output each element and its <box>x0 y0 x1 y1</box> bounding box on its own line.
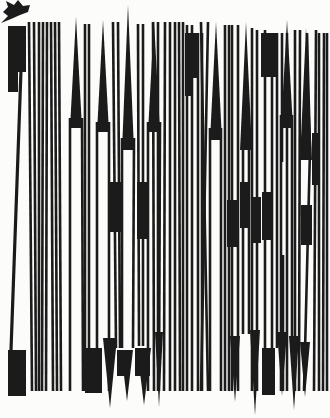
glyph-apex-wedge <box>300 28 312 160</box>
glyph-bar <box>185 33 198 78</box>
glyph-bar <box>253 197 261 243</box>
stretched-glyph-field <box>8 5 327 415</box>
glyph-bar <box>312 133 320 185</box>
glyph-vertex-wedge <box>300 342 310 397</box>
screenshot-root <box>0 0 330 418</box>
glyph-diagonal <box>11 70 21 350</box>
glyph-bar <box>110 182 122 232</box>
glyph-apex-wedge <box>240 22 252 150</box>
glyph-vertex-wedge <box>155 332 163 407</box>
glyph-stem <box>59 22 61 391</box>
glyph-bar <box>185 76 192 96</box>
glyph-bar <box>8 26 26 72</box>
glyph-apex-wedge <box>122 5 134 150</box>
glyph-stem <box>82 118 83 391</box>
glitch-canvas <box>0 0 330 418</box>
glyph-stem <box>133 138 134 348</box>
glyph-stem <box>299 30 300 391</box>
glyph-bar <box>85 348 102 393</box>
glyph-stem <box>164 22 165 391</box>
mouse-cursor-icon <box>1 0 30 23</box>
glyph-apex-wedge <box>97 20 109 132</box>
glyph-bar <box>262 192 271 240</box>
glyph-stem <box>51 22 53 391</box>
glyph-bar <box>137 182 148 239</box>
glyph-bar <box>301 205 312 245</box>
glyph-vertex-wedge <box>277 332 287 396</box>
glyph-stem <box>314 30 316 391</box>
glyph-stem <box>179 22 180 391</box>
glyph-stem <box>323 33 324 391</box>
glyph-bar <box>261 33 276 77</box>
glyph-stem <box>34 22 36 391</box>
glyph-stem <box>55 22 57 391</box>
glyph-vertex-wedge <box>103 338 117 408</box>
glyph-bar <box>240 182 248 228</box>
glyph-apex-wedge <box>70 17 82 128</box>
glyph-stem <box>42 22 43 391</box>
glyph-bar <box>8 68 18 92</box>
glyph-bar <box>8 350 26 396</box>
glyph-bar <box>262 348 275 395</box>
glyph-stem <box>46 22 47 391</box>
glyph-bar <box>227 200 238 247</box>
glyph-apex-wedge <box>210 22 222 140</box>
glyph-stem <box>29 22 32 391</box>
glyph-vertex-wedge <box>289 336 299 410</box>
